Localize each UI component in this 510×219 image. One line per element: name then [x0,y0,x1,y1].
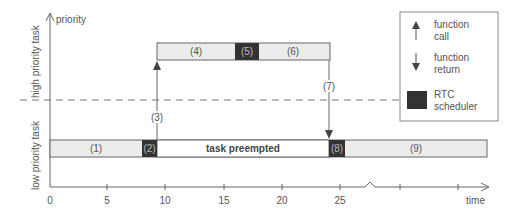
x-axis: 0 5 10 15 20 25 time [47,182,489,206]
task-preempted-label: task preempted [206,143,280,154]
segment-9: (9) [410,143,422,154]
low-priority-bar: (1) (2) task preempted (8) (9) [50,140,487,157]
segment-5: (5) [241,46,253,57]
legend-call-line1: function [434,19,469,30]
segment-3: (3) [151,112,163,123]
x-tick-25: 25 [334,195,346,206]
x-tick-5: 5 [104,195,110,206]
segment-4: (4) [190,46,202,57]
rtc-preemption-diagram: priority high priority task low priority… [0,0,510,219]
x-tick-15: 15 [218,195,230,206]
legend-rtc-line2: scheduler [434,101,478,112]
function-call-arrow: (3) [149,61,165,140]
rtc-scheduler-swatch [407,91,427,109]
lane-label-low: low priority task [30,120,41,190]
legend: function call function return RTC schedu… [400,12,498,121]
y-axis-label: priority [56,14,86,25]
x-axis-label: time [466,195,485,206]
lane-label-high: high priority task [30,24,41,98]
segment-2: (2) [143,143,155,154]
legend-return-line2: return [434,64,460,75]
x-tick-10: 10 [159,195,171,206]
segment-6: (6) [287,46,299,57]
high-priority-bar: (4) (5) (6) [157,43,330,60]
x-tick-0: 0 [47,195,53,206]
legend-call-line2: call [434,31,449,42]
segment-7: (7) [323,81,335,92]
segment-8: (8) [331,143,343,154]
segment-1: (1) [90,143,102,154]
x-tick-20: 20 [276,195,288,206]
legend-rtc-line1: RTC [434,89,454,100]
legend-return-line1: function [434,52,469,63]
